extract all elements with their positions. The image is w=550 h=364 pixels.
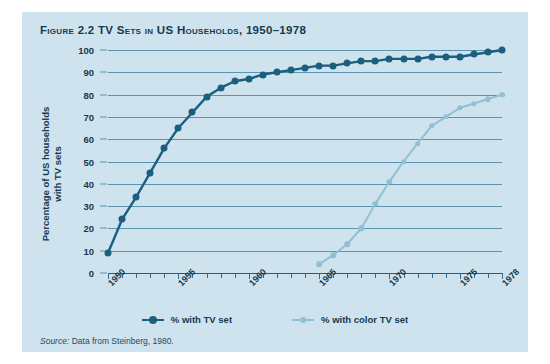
x-tick-label: 1978 <box>500 267 521 288</box>
y-tick-mark <box>100 116 107 117</box>
data-point <box>499 47 506 54</box>
data-point <box>457 105 463 111</box>
data-point <box>470 51 477 58</box>
legend: % with TV set % with color TV set <box>22 314 528 325</box>
y-tick-label: 90 <box>60 67 94 78</box>
data-point <box>386 55 393 62</box>
y-tick-label: 80 <box>60 89 94 100</box>
y-tick-label: 70 <box>60 111 94 122</box>
legend-item-color-tv-set: % with color TV set <box>292 314 408 325</box>
data-point <box>245 75 252 82</box>
data-point <box>133 194 140 201</box>
data-point <box>273 69 280 76</box>
data-point <box>119 216 126 223</box>
y-tick-mark <box>100 94 107 95</box>
data-point <box>316 261 322 267</box>
y-tick-label: 60 <box>60 134 94 145</box>
y-tick-label: 0 <box>60 268 94 279</box>
data-point <box>175 125 182 132</box>
x-tick-mark <box>305 273 306 278</box>
x-tick-mark <box>446 273 447 278</box>
series-line <box>319 95 502 264</box>
figure-panel: Figure 2.2 TV Sets in US Households, 195… <box>22 12 528 352</box>
y-tick-mark <box>100 72 107 73</box>
y-tick-mark <box>100 50 107 51</box>
data-point <box>330 62 337 69</box>
data-point <box>387 179 393 185</box>
x-tick-mark <box>164 273 165 278</box>
x-tick-mark <box>347 273 348 278</box>
data-point <box>105 249 112 256</box>
y-tick-mark <box>100 273 107 274</box>
y-tick-label: 30 <box>60 201 94 212</box>
data-point <box>147 169 154 176</box>
data-point <box>161 145 168 152</box>
data-point <box>484 49 491 56</box>
data-point <box>330 252 336 258</box>
series-lines <box>108 50 502 273</box>
x-tick-mark <box>291 273 292 278</box>
data-point <box>373 201 379 207</box>
data-point <box>359 226 365 232</box>
data-point <box>358 58 365 65</box>
data-point <box>428 53 435 60</box>
legend-item-tv-set: % with TV set <box>142 314 232 325</box>
legend-marker-color-tv-set <box>292 315 314 324</box>
data-point <box>442 53 449 60</box>
y-tick-label: 50 <box>60 156 94 167</box>
data-point <box>189 109 196 116</box>
x-tick-mark <box>221 273 222 278</box>
data-point <box>287 67 294 74</box>
x-tick-mark <box>150 273 151 278</box>
data-point <box>316 62 323 69</box>
legend-label-tv-set: % with TV set <box>171 314 232 325</box>
legend-marker-tv-set <box>142 315 164 324</box>
data-point <box>372 58 379 65</box>
figure-title: Figure 2.2 TV Sets in US Households, 195… <box>40 24 306 36</box>
data-point <box>443 114 449 120</box>
y-tick-label: 40 <box>60 178 94 189</box>
data-point <box>415 141 421 147</box>
data-point <box>302 64 309 71</box>
data-point <box>471 101 477 107</box>
data-point <box>344 60 351 67</box>
data-point <box>499 92 505 98</box>
data-point <box>401 159 407 165</box>
data-point <box>217 84 224 91</box>
y-tick-label: 100 <box>60 45 94 56</box>
y-tick-label: 10 <box>60 245 94 256</box>
x-tick-mark <box>432 273 433 278</box>
data-point <box>456 53 463 60</box>
y-tick-mark <box>100 228 107 229</box>
x-tick-mark <box>375 273 376 278</box>
data-point <box>231 78 238 85</box>
legend-label-color-tv-set: % with color TV set <box>321 314 408 325</box>
source-note: Source: Data from Steinberg, 1980. <box>40 336 174 346</box>
x-tick-mark <box>136 273 137 278</box>
data-point <box>203 93 210 100</box>
data-point <box>485 96 491 102</box>
x-tick-mark <box>207 273 208 278</box>
x-tick-mark <box>418 273 419 278</box>
source-label: Source: <box>40 336 69 346</box>
data-point <box>414 55 421 62</box>
y-tick-mark <box>100 161 107 162</box>
x-tick-mark <box>361 273 362 278</box>
data-point <box>259 71 266 78</box>
x-tick-mark <box>235 273 236 278</box>
data-point <box>344 241 350 247</box>
plot-area: 0102030405060708090100 19501955196019651… <box>108 50 502 273</box>
series-line <box>108 50 502 253</box>
y-tick-mark <box>100 206 107 207</box>
y-tick-label: 20 <box>60 223 94 234</box>
y-tick-mark <box>100 183 107 184</box>
source-text: Data from Steinberg, 1980. <box>72 336 174 346</box>
data-point <box>400 55 407 62</box>
data-point <box>429 123 435 129</box>
x-tick-mark <box>488 273 489 278</box>
y-tick-mark <box>100 139 107 140</box>
x-tick-mark <box>277 273 278 278</box>
